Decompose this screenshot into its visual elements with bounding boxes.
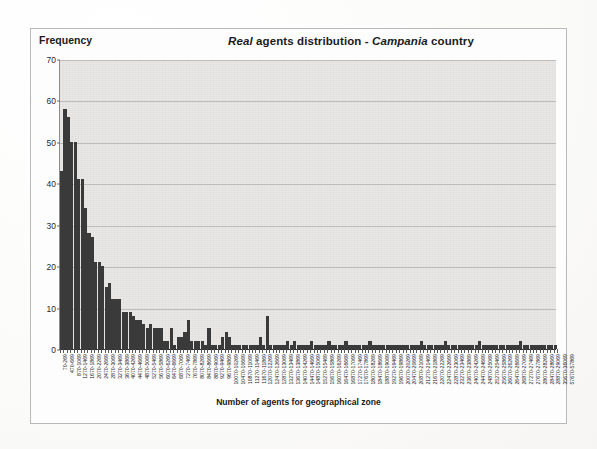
x-tick-mark (115, 349, 116, 353)
x-tick-mark (307, 349, 308, 353)
x-tick-mark (153, 349, 154, 353)
x-tick-label: 3270-3469 (118, 354, 124, 379)
chart-title-part-1: agents distribution - (256, 35, 372, 47)
x-tick-mark (468, 349, 469, 353)
x-tick-mark (67, 349, 68, 353)
x-tick-mark (286, 349, 287, 353)
x-tick-mark (471, 349, 472, 353)
x-tick-mark (276, 349, 277, 353)
plot-area: 010203040506070 (59, 60, 556, 350)
x-tick-label: 70-269 (63, 354, 69, 370)
x-tick-label: 16070-16269 (337, 354, 343, 385)
x-tick-mark (228, 349, 229, 353)
x-tick-mark (365, 349, 366, 353)
x-tick-mark (423, 349, 424, 353)
x-tick-label: 10470-10669 (241, 354, 247, 385)
x-tick-mark (74, 349, 75, 353)
x-tick-mark (530, 349, 531, 353)
x-tick-mark (303, 349, 304, 353)
x-tick-label: 4470-4669 (138, 354, 144, 379)
x-tick-mark (533, 349, 534, 353)
x-tick-mark (77, 349, 78, 353)
x-tick-mark (238, 349, 239, 353)
chart-title: Real agents distribution - Campania coun… (151, 35, 551, 47)
x-axis-ticks (60, 349, 556, 353)
x-tick-mark (557, 349, 558, 353)
x-tick-mark (190, 349, 191, 353)
x-tick-mark (266, 349, 267, 353)
x-tick-mark (221, 349, 222, 353)
x-tick-mark (63, 349, 64, 353)
x-tick-mark (139, 349, 140, 353)
x-tick-mark (94, 349, 95, 353)
x-tick-mark (502, 349, 503, 353)
x-tick-mark (547, 349, 548, 353)
x-tick-mark (269, 349, 270, 353)
x-tick-mark (118, 349, 119, 353)
x-tick-mark (526, 349, 527, 353)
x-tick-mark (60, 349, 61, 353)
x-tick-mark (344, 349, 345, 353)
y-tick-label: 70 (47, 55, 56, 65)
x-tick-mark (451, 349, 452, 353)
x-tick-mark (180, 349, 181, 353)
x-tick-mark (170, 349, 171, 353)
x-tick-mark (225, 349, 226, 353)
x-tick-label: 7670-7869 (193, 354, 199, 379)
x-tick-mark (324, 349, 325, 353)
x-tick-label: 10870-11069 (248, 354, 254, 384)
x-tick-mark (108, 349, 109, 353)
x-tick-mark (249, 349, 250, 353)
x-tick-label: 2070-2269 (97, 354, 103, 379)
x-tick-label: 28070-28269 (543, 354, 549, 385)
x-tick-mark (430, 349, 431, 353)
x-tick-mark (458, 349, 459, 353)
x-tick-mark (499, 349, 500, 353)
chart-title-part-2: Campania (372, 35, 428, 47)
x-tick-mark (413, 349, 414, 353)
x-tick-mark (293, 349, 294, 353)
x-tick-label: 18870-19069 (385, 354, 391, 385)
x-tick-mark (327, 349, 328, 353)
x-tick-mark (362, 349, 363, 353)
chart-title-part-3: country (428, 35, 474, 47)
x-tick-label: 18470-18669 (378, 354, 384, 385)
x-tick-label: 16470-16669 (344, 354, 350, 385)
x-axis-title: Number of agents for geographical zone (31, 397, 566, 407)
x-tick-mark (235, 349, 236, 353)
x-tick-mark (341, 349, 342, 353)
x-tick-mark (87, 349, 88, 353)
x-tick-mark (207, 349, 208, 353)
x-tick-mark (461, 349, 462, 353)
x-tick-label: 5670-5869 (159, 354, 165, 379)
x-tick-mark (454, 349, 455, 353)
y-tick-label: 0 (51, 345, 56, 355)
x-tick-mark (242, 349, 243, 353)
x-tick-mark (149, 349, 150, 353)
x-tick-label: 26470-26669 (515, 354, 521, 385)
x-tick-mark (440, 349, 441, 353)
x-tick-mark (101, 349, 102, 353)
x-tick-mark (129, 349, 130, 353)
x-tick-mark (416, 349, 417, 353)
x-tick-label: 13270-13469 (289, 354, 295, 385)
x-tick-mark (279, 349, 280, 353)
x-tick-label: 27670-27869 (536, 354, 542, 385)
x-tick-mark (177, 349, 178, 353)
x-tick-mark (132, 349, 133, 353)
x-tick-mark (194, 349, 195, 353)
chart-figure-frame: Frequency Real agents distribution - Cam… (30, 28, 567, 424)
x-tick-mark (392, 349, 393, 353)
y-tick-label: 40 (47, 179, 56, 189)
x-tick-label: 22470-22669 (447, 354, 453, 385)
y-axis-title: Frequency (39, 34, 92, 46)
x-tick-label: 19670-19869 (399, 354, 405, 385)
x-tick-label: 8470-8669 (207, 354, 213, 379)
x-tick-mark (382, 349, 383, 353)
x-tick-label: 14070-14269 (303, 354, 309, 385)
x-tick-mark (163, 349, 164, 353)
x-tick-mark (348, 349, 349, 353)
x-tick-mark (91, 349, 92, 353)
x-tick-mark (550, 349, 551, 353)
x-tick-label: 24470-24669 (481, 354, 487, 385)
